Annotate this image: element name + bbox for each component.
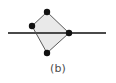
figure-panel: (b) [0,0,116,83]
vertex-dot-bottom [44,50,50,56]
vertex-dot-top [44,9,50,15]
figure-caption: (b) [0,62,116,76]
vertex-dot-left [29,23,35,29]
vertex-dot-right [66,30,72,36]
